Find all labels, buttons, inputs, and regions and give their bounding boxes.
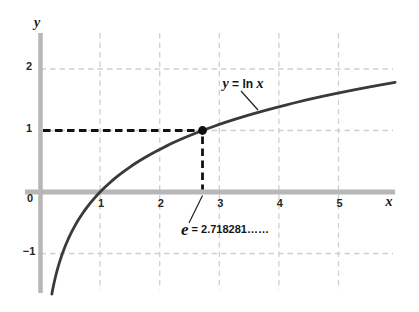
e-symbol: e <box>181 220 189 239</box>
ln-function-figure: y x 0 y = ln x e = 2.718281…… 1234521−1 <box>0 0 419 312</box>
y-tick-label: 2 <box>26 61 32 72</box>
ln-curve <box>52 82 395 294</box>
y-tick-label: −1 <box>23 245 36 256</box>
x-tick-label: 1 <box>98 198 104 209</box>
x-tick-label: 5 <box>336 198 342 209</box>
x-axis-label: x <box>386 195 393 209</box>
x-tick-label: 3 <box>217 198 223 209</box>
origin-tick-label: 0 <box>27 193 33 204</box>
curve-label-leader-line <box>241 91 258 110</box>
e-value-text: = 2.718281…… <box>189 223 269 235</box>
e-value-label: e = 2.718281…… <box>181 221 269 238</box>
curve-eq-arg: x <box>256 76 263 91</box>
curve-eq-equals: = <box>229 77 243 91</box>
e-label-leader-line <box>189 196 203 224</box>
y-tick-label: 1 <box>26 122 32 133</box>
x-tick-label: 4 <box>277 198 283 209</box>
y-axis-label: y <box>34 16 40 30</box>
x-tick-label: 2 <box>158 198 164 209</box>
point-e-marker <box>198 126 207 135</box>
curve-equation-label: y = ln x <box>223 75 264 91</box>
curve-eq-ln: ln <box>242 77 256 91</box>
plot-canvas <box>0 0 419 312</box>
